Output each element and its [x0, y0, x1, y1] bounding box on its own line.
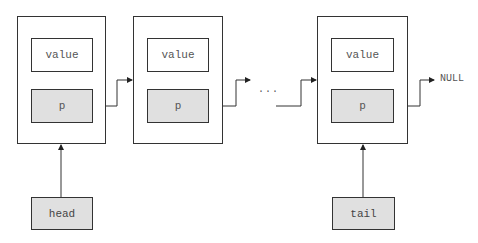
head-label: head: [49, 208, 75, 220]
node-2-value-label: value: [161, 49, 194, 61]
arrow-ellipsis-to-node3: [276, 80, 316, 106]
linked-list-diagram: value p value p ... value p NULL head ta…: [0, 0, 478, 243]
node-1-pointer-field: p: [31, 89, 93, 123]
tail-label: tail: [350, 208, 376, 220]
node-1-pointer-label: p: [59, 100, 66, 112]
node-1-value-field: value: [31, 38, 93, 72]
node-3-pointer-label: p: [359, 100, 366, 112]
null-terminator: NULL: [440, 73, 464, 84]
tail-pointer-box: tail: [332, 197, 395, 230]
node-2-pointer-field: p: [147, 89, 209, 123]
node-3-pointer-field: p: [331, 89, 394, 123]
node-1-value-label: value: [45, 49, 78, 61]
list-node-2: [133, 16, 223, 144]
node-2-value-field: value: [147, 38, 209, 72]
node-3-value-label: value: [346, 49, 379, 61]
list-node-3: [317, 16, 408, 144]
node-2-pointer-label: p: [175, 100, 182, 112]
node-3-value-field: value: [331, 38, 394, 72]
ellipsis: ...: [258, 84, 279, 95]
list-node-1: [17, 16, 106, 144]
head-pointer-box: head: [31, 197, 93, 230]
